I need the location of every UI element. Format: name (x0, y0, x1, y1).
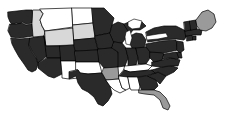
state-MT[interactable] (40, 8, 73, 31)
state-WY[interactable] (45, 28, 74, 46)
state-RI[interactable] (193, 36, 196, 40)
state-NE[interactable] (74, 38, 98, 51)
state-WA[interactable] (8, 10, 33, 25)
state-OK[interactable] (76, 62, 102, 74)
state-KS[interactable] (75, 50, 99, 62)
state-SD[interactable] (73, 23, 95, 40)
us-choropleth-map (0, 0, 244, 114)
map-canvas (0, 0, 244, 114)
state-NJ[interactable] (177, 41, 184, 53)
state-CO[interactable] (60, 45, 76, 61)
state-AR[interactable] (102, 67, 119, 80)
state-OR[interactable] (8, 23, 33, 38)
state-ND[interactable] (72, 8, 93, 25)
